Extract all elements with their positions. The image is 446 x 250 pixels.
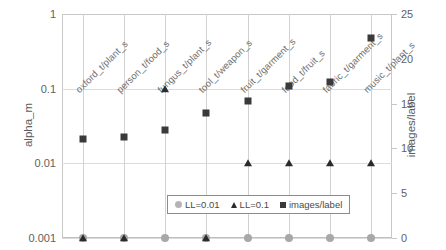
data-point-triangle xyxy=(202,234,210,241)
legend-label: LL=0.01 xyxy=(185,199,220,210)
y-axis-right-tick-label: 0 xyxy=(401,232,407,244)
data-point-circle xyxy=(285,234,293,242)
legend-circle-icon xyxy=(175,201,182,208)
y-axis-right-tick-label: 25 xyxy=(401,8,413,20)
gridline-horizontal xyxy=(62,89,392,90)
data-point-square xyxy=(162,127,169,134)
data-point-square xyxy=(120,133,127,140)
y-axis-right-tick-mark xyxy=(392,193,397,194)
y-axis-right-tick-label: 5 xyxy=(401,187,407,199)
data-point-circle xyxy=(367,234,375,242)
data-point-triangle xyxy=(367,159,375,166)
data-point-triangle xyxy=(79,234,87,241)
data-point-circle xyxy=(161,234,169,242)
data-point-triangle xyxy=(326,159,334,166)
y-axis-right-tick-label: 10 xyxy=(401,142,413,154)
y-axis-left-tick-label: 0.01 xyxy=(35,157,56,169)
data-point-triangle xyxy=(244,159,252,166)
gridline-horizontal xyxy=(62,238,392,239)
chart-legend: LL=0.01LL=0.1images/label xyxy=(167,195,350,214)
y-axis-right-tick-mark xyxy=(392,104,397,105)
data-point-square xyxy=(327,79,334,86)
data-point-square xyxy=(79,136,86,143)
y-axis-right-tick-mark xyxy=(392,238,397,239)
y-axis-right-tick-mark xyxy=(392,148,397,149)
y-axis-right-tick-mark xyxy=(392,14,397,15)
data-point-square xyxy=(368,35,375,42)
legend-item: LL=0.01 xyxy=(175,199,220,210)
data-point-triangle xyxy=(161,85,169,92)
legend-label: images/label xyxy=(289,199,342,210)
y-axis-left-tick-label: 0.1 xyxy=(41,83,56,95)
legend-square-icon xyxy=(280,202,286,208)
legend-triangle-icon xyxy=(231,202,237,208)
legend-item: LL=0.1 xyxy=(231,199,269,210)
data-point-triangle xyxy=(285,159,293,166)
data-point-circle xyxy=(244,234,252,242)
y-axis-left-tick-label: 0.001 xyxy=(28,232,56,244)
legend-label: LL=0.1 xyxy=(240,199,269,210)
gridline-vertical xyxy=(83,14,84,238)
y-axis-left-title: alpha_m xyxy=(22,103,34,147)
y-axis-left-tick-label: 1 xyxy=(50,8,56,20)
chart-container: alpha_m images/label 10.10.010.001 25201… xyxy=(0,0,446,250)
data-point-square xyxy=(203,109,210,116)
y-axis-right-tick-label: 15 xyxy=(401,98,413,110)
data-point-square xyxy=(285,82,292,89)
legend-item: images/label xyxy=(280,199,342,210)
data-point-circle xyxy=(326,234,334,242)
gridline-horizontal xyxy=(62,163,392,164)
data-point-triangle xyxy=(120,234,128,241)
data-point-square xyxy=(244,97,251,104)
